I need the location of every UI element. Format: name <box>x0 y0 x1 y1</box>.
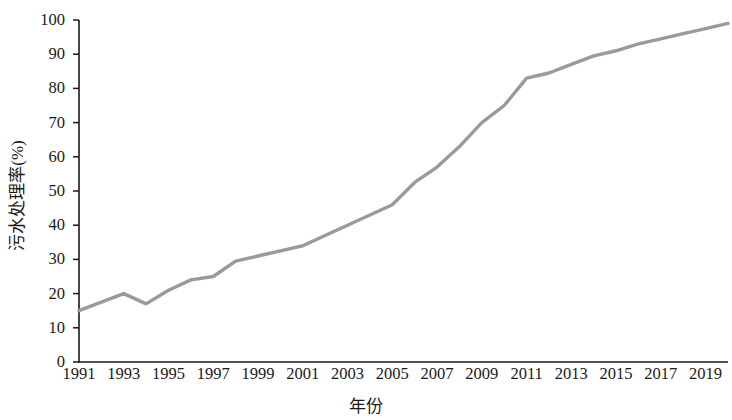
y-tick-label: 50 <box>23 183 65 199</box>
y-tick-label: 90 <box>23 46 65 62</box>
chart-axes <box>79 20 728 362</box>
y-tick-label: 40 <box>23 217 65 233</box>
axis-lines <box>79 20 728 362</box>
y-tick-label: 30 <box>23 251 65 267</box>
x-tick-label: 2005 <box>369 366 415 382</box>
x-tick-label: 2007 <box>414 366 460 382</box>
x-tick-label: 2003 <box>325 366 371 382</box>
x-tick-label: 2019 <box>683 366 729 382</box>
x-tick-label: 2017 <box>638 366 684 382</box>
x-axis-label: 年份 <box>0 392 732 417</box>
x-tick-label: 1999 <box>235 366 281 382</box>
y-tick-label: 60 <box>23 149 65 165</box>
x-tick-label: 2009 <box>459 366 505 382</box>
x-tick-label: 2011 <box>504 366 550 382</box>
y-tick-label: 70 <box>23 115 65 131</box>
y-tick-label: 100 <box>23 12 65 28</box>
data-series-line <box>79 23 728 310</box>
x-tick-label: 1991 <box>56 366 102 382</box>
y-tick-label: 80 <box>23 80 65 96</box>
x-tick-label: 2001 <box>280 366 326 382</box>
y-tick-label: 10 <box>23 320 65 336</box>
x-tick-label: 2013 <box>548 366 594 382</box>
chart-figure: 污水处理率(%) 年份 0102030405060708090100 19911… <box>0 0 732 420</box>
x-tick-label: 1993 <box>101 366 147 382</box>
y-tick-label: 20 <box>23 286 65 302</box>
x-tick-label: 1995 <box>146 366 192 382</box>
line-chart-plot <box>0 0 732 420</box>
x-tick-label: 1997 <box>190 366 236 382</box>
x-tick-label: 2015 <box>593 366 639 382</box>
